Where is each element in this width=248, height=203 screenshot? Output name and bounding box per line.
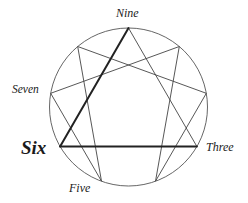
hexad-lines [51, 28, 207, 181]
label-five: Five [69, 182, 90, 194]
label-three: Three [206, 141, 234, 153]
label-six: Six [21, 138, 46, 157]
edge-3-9 [129, 28, 197, 147]
enneagram-circle [50, 28, 208, 186]
triangle-lines [60, 28, 197, 147]
label-seven: Seven [12, 84, 39, 96]
thick-edge-9-6 [60, 28, 128, 147]
label-nine: Nine [116, 7, 139, 19]
enneagram-diagram [0, 0, 248, 203]
